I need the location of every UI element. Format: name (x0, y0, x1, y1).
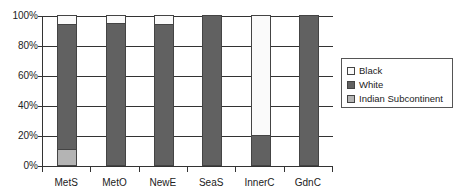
x-tick-label: MetO (91, 177, 139, 188)
y-tick-label: 20% (0, 130, 38, 141)
gridline (43, 76, 333, 77)
bar-segment-white (202, 15, 222, 166)
legend-item-indian-subcontinent: Indian Subcontinent (347, 93, 443, 104)
bar-segment-white (251, 135, 271, 166)
x-tick-label: NewE (139, 177, 187, 188)
y-tick (38, 76, 43, 77)
x-tick (90, 167, 91, 172)
bar-segment-white (299, 15, 319, 166)
legend-swatch-white (347, 81, 355, 89)
x-tick-label: MetS (42, 177, 90, 188)
legend-label-indian-subcontinent: Indian Subcontinent (359, 93, 443, 104)
gridline (43, 16, 333, 17)
bar-meto (106, 16, 126, 166)
bar-mets (57, 16, 77, 166)
bar-segment-indian-subcontinent (57, 149, 77, 167)
x-tick-label: InnerC (236, 177, 284, 188)
y-tick-label: 100% (0, 10, 38, 21)
x-tick (284, 167, 285, 172)
gridline (43, 136, 333, 137)
y-tick-label: 40% (0, 100, 38, 111)
x-tick-label: GdnC (284, 177, 332, 188)
x-tick-label: SeaS (187, 177, 235, 188)
bar-segment-black (251, 15, 271, 136)
bar-segment-white (154, 24, 174, 166)
y-tick (38, 16, 43, 17)
y-tick (38, 136, 43, 137)
x-tick (187, 167, 188, 172)
bar-segment-white (106, 23, 126, 167)
y-tick-label: 0% (0, 160, 38, 171)
plot-area (42, 16, 333, 167)
bar-innerc (251, 16, 271, 166)
legend: Black White Indian Subcontinent (341, 58, 453, 108)
x-tick (42, 167, 43, 172)
legend-swatch-black (347, 67, 355, 75)
legend-label-black: Black (359, 65, 382, 76)
x-tick (139, 167, 140, 172)
bar-gdnc (299, 16, 319, 166)
gridline (43, 46, 333, 47)
x-tick (235, 167, 236, 172)
legend-item-white: White (347, 79, 383, 90)
legend-label-white: White (359, 79, 383, 90)
x-tick (332, 167, 333, 172)
y-tick-label: 60% (0, 70, 38, 81)
legend-swatch-indian-subcontinent (347, 95, 355, 103)
bar-segment-white (57, 24, 77, 150)
y-tick-label: 80% (0, 40, 38, 51)
bar-seas (202, 16, 222, 166)
legend-item-black: Black (347, 65, 382, 76)
bar-newe (154, 16, 174, 166)
y-tick (38, 46, 43, 47)
y-tick (38, 106, 43, 107)
gridline (43, 106, 333, 107)
